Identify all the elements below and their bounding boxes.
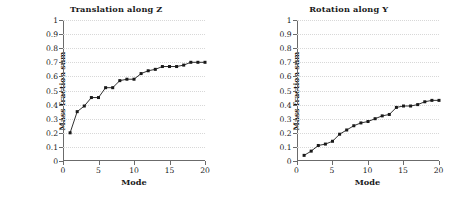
data-point-marker [309, 150, 312, 153]
chart-title: Rotation along Y [233, 4, 465, 14]
data-point-marker [161, 65, 164, 68]
x-tick-label: 20 [200, 166, 210, 175]
y-tick-label: 0.4 [46, 100, 58, 109]
x-axis-title: Mode [63, 177, 205, 187]
data-point-marker [409, 105, 412, 108]
data-point-marker [437, 99, 440, 102]
data-point-marker [196, 61, 199, 64]
data-point-marker [204, 61, 207, 64]
data-point-marker [182, 64, 185, 67]
chart-title: Translation along Z [0, 4, 233, 14]
data-point-marker [423, 100, 426, 103]
data-series-line [63, 20, 205, 161]
chart-panel-rotation-y: Rotation along Y Mass fraction sum Mode … [233, 0, 465, 205]
y-tick-label: 0.3 [46, 114, 58, 123]
y-tick-label: 0.8 [46, 44, 58, 53]
data-point-marker [366, 120, 369, 123]
data-point-marker [302, 154, 305, 157]
x-tick-label: 5 [96, 166, 101, 175]
x-tick-mark [134, 161, 135, 165]
data-point-marker [345, 128, 348, 131]
data-point-marker [175, 65, 178, 68]
y-tick-label: 0.5 [279, 86, 291, 95]
x-tick-label: 15 [398, 166, 408, 175]
plot-area-rotation-y: Mass fraction sum Mode 00.10.20.30.40.50… [297, 20, 439, 161]
x-tick-mark [170, 161, 171, 165]
data-point-marker [373, 117, 376, 120]
data-point-marker [83, 105, 86, 108]
chart-panel-translation-z: Translation along Z Mass fraction sum Mo… [0, 0, 233, 205]
y-tick-label: 0 [287, 157, 292, 166]
x-tick-label: 10 [129, 166, 139, 175]
y-tick-label: 1 [53, 16, 58, 25]
y-tick-label: 0.6 [279, 72, 291, 81]
data-point-marker [430, 99, 433, 102]
data-point-marker [402, 105, 405, 108]
x-tick-mark [332, 161, 333, 165]
data-point-marker [104, 86, 107, 89]
x-tick-label: 0 [61, 166, 66, 175]
x-tick-label: 20 [434, 166, 444, 175]
x-tick-mark [99, 161, 100, 165]
y-tick-label: 1 [287, 16, 292, 25]
y-tick-label: 0.9 [279, 30, 291, 39]
data-point-marker [331, 140, 334, 143]
data-point-marker [118, 79, 121, 82]
data-series-line [297, 20, 439, 161]
x-tick-label: 15 [165, 166, 175, 175]
series-polyline [304, 100, 439, 155]
data-point-marker [352, 124, 355, 127]
y-tick-label: 0.8 [279, 44, 291, 53]
x-tick-mark [205, 161, 206, 165]
data-point-marker [140, 72, 143, 75]
y-tick-label: 0 [53, 157, 58, 166]
data-point-marker [154, 68, 157, 71]
data-point-marker [76, 110, 79, 113]
x-tick-mark [403, 161, 404, 165]
plot-area-translation-z: Mass fraction sum Mode 00.10.20.30.40.50… [63, 20, 205, 161]
data-point-marker [147, 69, 150, 72]
data-point-marker [125, 78, 128, 81]
y-tick-label: 0.9 [46, 30, 58, 39]
data-point-marker [416, 103, 419, 106]
y-tick-label: 0.6 [46, 72, 58, 81]
data-point-marker [323, 143, 326, 146]
x-tick-mark [439, 161, 440, 165]
data-point-marker [359, 121, 362, 124]
data-point-marker [394, 106, 397, 109]
y-tick-label: 0.5 [46, 86, 58, 95]
y-tick-label: 0.2 [46, 128, 58, 137]
figure-two-panel-charts: Translation along Z Mass fraction sum Mo… [0, 0, 465, 205]
data-point-marker [168, 65, 171, 68]
data-point-marker [90, 96, 93, 99]
y-tick-label: 0.2 [279, 128, 291, 137]
data-point-marker [316, 144, 319, 147]
data-point-marker [387, 113, 390, 116]
data-point-marker [189, 61, 192, 64]
x-tick-mark [297, 161, 298, 165]
data-point-marker [111, 86, 114, 89]
x-tick-mark [63, 161, 64, 165]
data-point-marker [133, 78, 136, 81]
y-tick-label: 0.7 [279, 58, 291, 67]
x-tick-label: 0 [294, 166, 299, 175]
x-tick-label: 10 [363, 166, 373, 175]
x-tick-mark [368, 161, 369, 165]
x-tick-label: 5 [330, 166, 335, 175]
x-axis-title: Mode [297, 177, 439, 187]
data-point-marker [69, 131, 72, 134]
y-tick-label: 0.3 [279, 114, 291, 123]
data-point-marker [338, 133, 341, 136]
data-point-marker [380, 114, 383, 117]
y-tick-label: 0.1 [279, 142, 291, 151]
data-point-marker [97, 96, 100, 99]
y-tick-label: 0.7 [46, 58, 58, 67]
y-tick-label: 0.1 [46, 142, 58, 151]
y-tick-label: 0.4 [279, 100, 291, 109]
